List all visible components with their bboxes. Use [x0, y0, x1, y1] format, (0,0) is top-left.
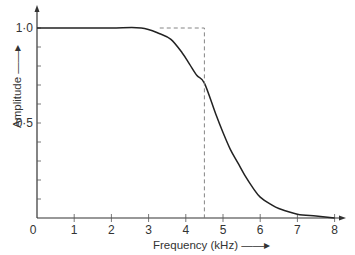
response-curve: [37, 28, 335, 218]
x-tick-label: 4: [182, 224, 189, 236]
ideal-cutoff-line: [160, 28, 205, 218]
y-axis-label: Amplitude ——▸: [12, 45, 24, 128]
x-tick-label: 1: [71, 224, 78, 236]
x-tick-label: 3: [145, 224, 152, 236]
x-tick-label: 5: [220, 224, 227, 236]
x-tick-label: 6: [257, 224, 264, 236]
x-tick-label: 2: [108, 224, 115, 236]
y-tick-label: 1·0: [3, 22, 33, 34]
x-tick-label: 8: [331, 224, 338, 236]
x-axis-arrow-icon: [339, 216, 346, 221]
y-axis-arrow-icon: [35, 5, 40, 12]
data-series: [37, 28, 335, 218]
x-tick-label: 0: [30, 224, 37, 236]
chart-plot-area: [0, 0, 355, 255]
axes: [37, 8, 340, 218]
x-tick-label: 7: [294, 224, 301, 236]
x-axis-label: Frequency (kHz) ——▸: [153, 240, 270, 252]
